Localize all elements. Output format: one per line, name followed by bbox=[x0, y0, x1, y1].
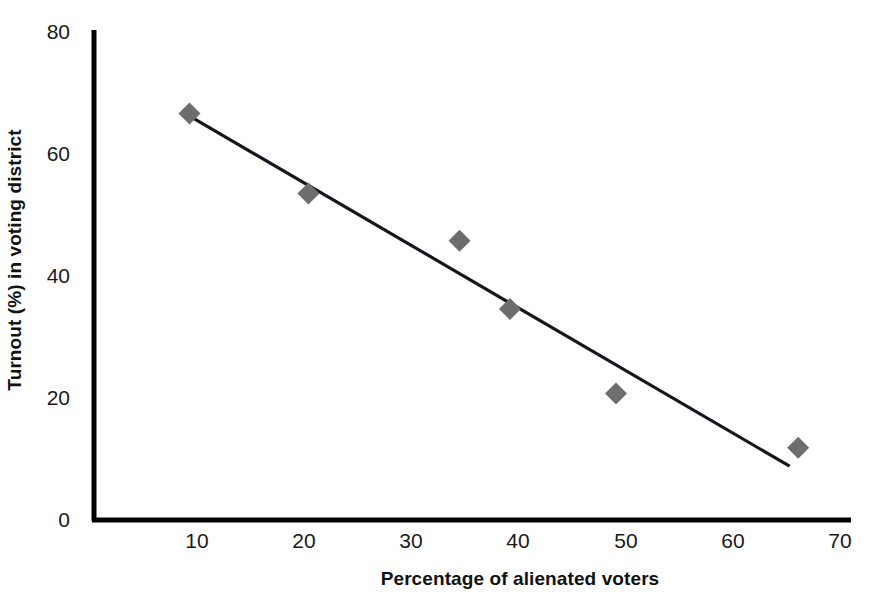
data-point-marker bbox=[605, 382, 627, 404]
data-point-marker bbox=[499, 298, 521, 320]
data-point-markers bbox=[179, 103, 810, 459]
axis-lines bbox=[92, 30, 851, 521]
data-point-marker bbox=[787, 437, 809, 459]
data-point-marker bbox=[297, 183, 319, 205]
trendline-segment bbox=[186, 114, 789, 466]
scatter-chart: Turnout (%) in voting district Percentag… bbox=[0, 0, 875, 614]
plot-area bbox=[0, 0, 875, 614]
data-point-marker bbox=[449, 230, 471, 252]
trendline bbox=[186, 114, 789, 466]
